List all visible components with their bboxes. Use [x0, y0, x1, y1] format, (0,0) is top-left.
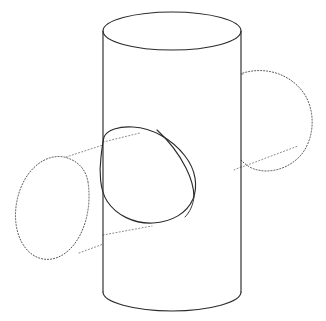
- intersecting-cylinders-figure: [0, 0, 326, 321]
- right-cap-ellipse: [236, 71, 312, 171]
- vertical-cylinder-body-fill: [103, 31, 241, 311]
- horizontal-cylinder-right-end: [232, 71, 312, 171]
- cylinder-body-mask: [103, 31, 241, 311]
- left-cap-ellipse: [15, 157, 89, 260]
- right-lower-silhouette: [234, 146, 298, 170]
- diagram-canvas: [0, 0, 326, 321]
- cylinder-top-ellipse: [103, 12, 241, 50]
